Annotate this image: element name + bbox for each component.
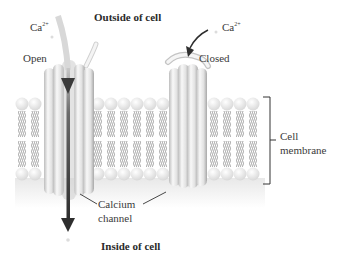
closed-calcium-channel bbox=[168, 55, 208, 188]
membrane-bracket bbox=[263, 97, 276, 184]
outside-of-cell-label: Outside of cell bbox=[94, 12, 161, 23]
calcium-ion-left bbox=[51, 36, 54, 39]
calcium-ion-right-label: Ca2+ bbox=[222, 22, 241, 33]
calcium-channel-label: Calcium channel bbox=[98, 198, 135, 226]
inside-of-cell-label: Inside of cell bbox=[101, 241, 160, 252]
closed-label: Closed bbox=[199, 53, 230, 64]
open-label: Open bbox=[23, 53, 47, 64]
cell-membrane-label: Cell membrane bbox=[280, 130, 326, 158]
calcium-ion-left-label: Ca2+ bbox=[30, 22, 49, 33]
